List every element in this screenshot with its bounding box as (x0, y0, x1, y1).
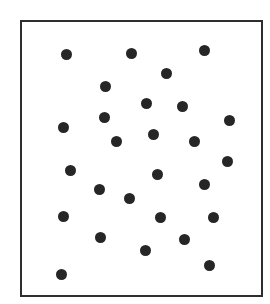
dot (222, 156, 233, 167)
dot (99, 112, 110, 123)
dot (179, 234, 190, 245)
dot (224, 115, 235, 126)
dot (56, 269, 67, 280)
dot (140, 245, 151, 256)
dot (199, 45, 210, 56)
dot (124, 193, 135, 204)
dot (161, 68, 172, 79)
dot (177, 101, 188, 112)
dot (141, 98, 152, 109)
dot (100, 81, 111, 92)
dot (95, 232, 106, 243)
dot (189, 136, 200, 147)
dot (155, 212, 166, 223)
dot (65, 165, 76, 176)
dot (204, 260, 215, 271)
dot (111, 136, 122, 147)
dot (199, 179, 210, 190)
dot (126, 48, 137, 59)
dot (148, 129, 159, 140)
dot (61, 49, 72, 60)
dot (58, 122, 69, 133)
dot (152, 169, 163, 180)
dot (94, 184, 105, 195)
dot (58, 211, 69, 222)
dot (208, 212, 219, 223)
